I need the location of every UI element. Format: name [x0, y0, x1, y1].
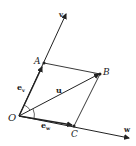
point-a [43, 62, 46, 65]
label-b: B [102, 67, 110, 77]
label-a: A [33, 56, 41, 66]
segment-bc [74, 74, 100, 126]
u-vector [19, 74, 99, 116]
label-w-axis: w [123, 125, 131, 134]
point-c [73, 125, 76, 128]
label-e-v: ev [17, 82, 26, 93]
label-origin: O [8, 112, 16, 123]
label-v-axis: v [58, 10, 64, 19]
angle-arc-u-w [33, 109, 34, 119]
label-u: u [56, 85, 62, 95]
vector-decomposition-diagram: O A B C v w u ev ew [0, 0, 136, 146]
angle-arc-v-u [24, 105, 30, 110]
segment-ab [44, 63, 100, 74]
point-b [99, 73, 102, 76]
label-c: C [71, 129, 78, 139]
